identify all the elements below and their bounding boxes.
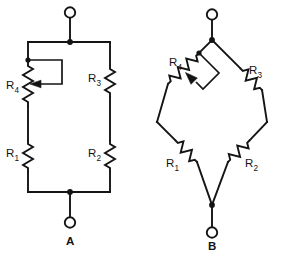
diagram-a-bottom-terminal	[65, 217, 75, 227]
diagram-b-upper-right-wire-top	[212, 40, 240, 68]
diagram-b-r1-label-sub: 1	[175, 164, 180, 173]
diagram-a-top-terminal	[65, 7, 75, 17]
diagram-a-caption: A	[66, 235, 74, 247]
diagram-b-r1-label: R	[166, 157, 174, 169]
diagram-b-caption: B	[208, 240, 216, 252]
diagram-a-r2-body	[105, 140, 115, 172]
diagram-a-r1-body	[23, 140, 33, 172]
diagram-b-lower-left-wire-top	[157, 122, 175, 140]
diagram-b-bottom-terminal	[207, 227, 217, 237]
diagram-b-r2-label: R	[245, 157, 253, 169]
diagram-b-r2-label-sub: 2	[254, 164, 259, 173]
diagram-b-top-terminal	[207, 9, 217, 19]
diagram-b-r4-tap-wire	[196, 53, 219, 89]
circuit-figure-canvas: R 4 R 1 R 3 R 2 A	[0, 0, 308, 254]
diagram-a: R 4 R 1 R 3 R 2 A	[6, 7, 115, 247]
diagram-b-r3-label: R	[249, 64, 257, 76]
diagram-b: R 4 R 3 R 1 R 2 B	[157, 9, 267, 252]
diagram-a-r1-label-sub: 1	[15, 154, 20, 163]
diagram-a-r4-label: R	[6, 79, 14, 91]
diagram-b-lower-left-wire-bottom	[197, 162, 212, 205]
diagram-a-top-node	[67, 39, 73, 45]
diagram-b-upper-left-wire-top	[199, 40, 212, 53]
diagram-b-r4-label: R	[169, 56, 177, 68]
diagram-a-r2-label-sub: 2	[97, 154, 102, 163]
diagram-b-upper-left-wire-bottom	[157, 84, 168, 122]
diagram-b-r3-label-sub: 3	[258, 71, 263, 80]
diagram-a-r3-label-sub: 3	[97, 79, 102, 88]
diagram-b-lower-right-wire-bottom	[212, 162, 228, 205]
diagram-a-r3-label: R	[88, 72, 96, 84]
diagram-b-upper-right-wire-bottom	[262, 90, 267, 122]
diagram-a-r3-body	[105, 65, 115, 97]
diagram-a-r2-label: R	[88, 147, 96, 159]
diagram-b-lower-right-wire-top	[250, 122, 267, 140]
diagram-b-r4-label-sub: 4	[178, 63, 183, 72]
diagram-a-r1-label: R	[6, 147, 14, 159]
circuit-figure: R 4 R 1 R 3 R 2 A	[0, 0, 308, 254]
diagram-a-r4-label-sub: 4	[15, 86, 20, 95]
